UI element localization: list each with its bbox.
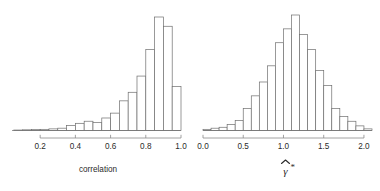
histogram-bar	[348, 121, 356, 130]
histogram-bar	[356, 126, 364, 131]
hat-accent-icon	[282, 160, 290, 164]
histogram-bar	[259, 82, 267, 131]
x-axis-tick-label: 0.5	[238, 142, 250, 151]
gamma-hat-star-axis	[203, 135, 364, 138]
histogram-bar	[300, 35, 308, 131]
gamma-hat-star-tick-labels: 0.00.51.01.52.0	[197, 142, 370, 151]
x-axis-tick-label: 0.6	[105, 142, 117, 151]
histogram-bar	[75, 123, 84, 130]
correlation-bars	[12, 17, 181, 131]
histogram-bar	[119, 101, 128, 131]
histogram-bar	[137, 76, 146, 130]
histogram-bar	[243, 109, 251, 131]
histogram-bar	[128, 92, 137, 130]
histogram-bar	[251, 96, 259, 131]
histogram-panel-gamma-hat-star: 0.00.51.01.52.0 γ *	[190, 0, 380, 191]
x-axis-tick-label: 0.0	[197, 142, 209, 151]
histogram-bar	[219, 127, 227, 130]
histogram-bar	[324, 85, 332, 130]
x-axis-tick-label: 0.8	[140, 142, 152, 151]
histogram-bar	[146, 49, 155, 130]
gamma-hat-star-axis-title: γ *	[282, 160, 296, 177]
asterisk-symbol: *	[291, 162, 296, 172]
x-axis-tick-label: 1.0	[175, 142, 187, 151]
correlation-axis-title: correlation	[79, 165, 118, 174]
histogram-bar	[227, 124, 235, 130]
histogram-bar	[316, 70, 324, 130]
x-axis-tick-label: 1.5	[318, 142, 330, 151]
histogram-bar	[172, 86, 181, 130]
histogram-bar	[340, 117, 348, 131]
gamma-hat-star-bars	[203, 15, 372, 131]
correlation-tick-labels: 0.20.40.60.81.0	[34, 142, 187, 151]
histogram-panel-correlation: 0.20.40.60.81.0 correlation	[0, 0, 190, 191]
histogram-bar	[292, 15, 300, 131]
correlation-axis	[40, 135, 181, 138]
histogram-bar	[332, 109, 340, 131]
histogram-bar	[235, 121, 243, 131]
histogram-bar	[308, 50, 316, 131]
gamma-hat-star-histogram-plot: 0.00.51.01.52.0 γ *	[190, 0, 380, 191]
histogram-bar	[155, 17, 164, 131]
histogram-bar	[267, 66, 275, 131]
histogram-bar	[93, 122, 102, 130]
correlation-histogram-plot: 0.20.40.60.81.0 correlation	[0, 0, 190, 191]
histogram-bar	[275, 43, 283, 131]
histogram-bar	[102, 118, 111, 131]
x-axis-tick-label: 1.0	[278, 142, 290, 151]
histogram-bar	[283, 29, 291, 131]
x-axis-tick-label: 0.4	[70, 142, 82, 151]
x-axis-tick-label: 2.0	[358, 142, 370, 151]
x-axis-tick-label: 0.2	[34, 142, 46, 151]
histogram-bar	[111, 113, 120, 130]
histogram-figure: 0.20.40.60.81.0 correlation 0.00.51.01.5…	[0, 0, 380, 191]
histogram-bar	[84, 121, 93, 130]
histogram-bar	[163, 26, 172, 130]
histogram-bar	[67, 126, 76, 131]
gamma-symbol: γ	[283, 165, 288, 177]
